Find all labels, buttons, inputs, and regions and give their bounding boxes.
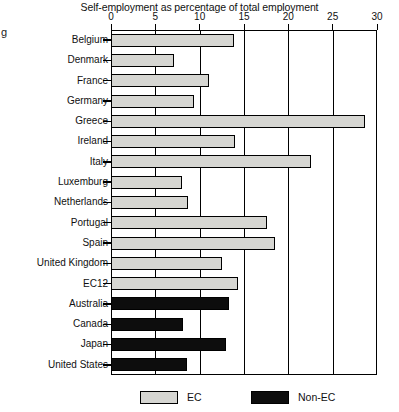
bar-ireland [111,135,235,148]
category-label: Denmark [67,50,108,70]
chart-row: Denmark [0,50,399,70]
bar-belgium [111,34,234,47]
legend-item-ec: EC [140,386,202,408]
x-axis-tick-label: 0 [108,11,114,22]
chart-row: Germany [0,91,399,111]
bar-ec12 [111,277,238,290]
x-axis-tick-label: 20 [283,11,294,22]
x-axis-tick-label: 15 [238,11,249,22]
bar-france [111,74,209,87]
bar-united-states [111,358,187,371]
x-axis-tick-label: 25 [327,11,338,22]
chart-row: Japan [0,334,399,354]
chart-row: Spain [0,233,399,253]
category-tick [103,39,111,40]
chart-row: United States [0,355,399,375]
category-tick [103,283,111,284]
chart-row: Greece [0,111,399,131]
bar-italy [111,155,311,168]
chart-legend: EC Non-EC [0,386,399,408]
x-axis-tick-label: 10 [194,11,205,22]
category-tick [103,202,111,203]
chart-figure: Self-employment as percentage of total e… [0,0,399,412]
category-tick [103,263,111,264]
legend-label-ec: EC [187,391,202,403]
bar-canada [111,318,183,331]
category-label: Netherlands [54,192,108,212]
category-tick [103,242,111,243]
category-tick [103,60,111,61]
bar-united-kingdom [111,257,222,270]
chart-row: Portugal [0,213,399,233]
category-tick [103,303,111,304]
x-axis-tick-label: 30 [371,11,382,22]
bar-germany [111,95,194,108]
category-tick [103,344,111,345]
category-tick [103,141,111,142]
bar-luxemburg [111,176,182,189]
bar-portugal [111,216,267,229]
bar-spain [111,237,275,250]
bar-greece [111,115,365,128]
chart-row: Australia [0,294,399,314]
bar-denmark [111,54,174,67]
category-tick [103,364,111,365]
category-tick [103,80,111,81]
chart-row: United Kingdom [0,253,399,273]
legend-swatch-ec [140,391,178,404]
chart-row: Italy [0,152,399,172]
category-tick [103,324,111,325]
chart-row: EC12 [0,274,399,294]
chart-row: Ireland [0,131,399,151]
category-label: United States [48,355,108,375]
category-label: Germany [67,91,108,111]
bar-australia [111,297,229,310]
category-tick [103,121,111,122]
category-label: Luxemburg [58,172,108,192]
chart-row: Luxemburg [0,172,399,192]
legend-label-non-ec: Non-EC [298,391,335,403]
chart-row: Netherlands [0,192,399,212]
legend-item-non-ec: Non-EC [251,386,335,408]
category-tick [103,181,111,182]
chart-row: Belgium [0,30,399,50]
category-tick [103,161,111,162]
chart-row: France [0,71,399,91]
bar-netherlands [111,196,188,209]
category-tick [103,100,111,101]
x-axis-tick-label: 5 [153,11,159,22]
bar-japan [111,338,226,351]
category-tick [103,222,111,223]
legend-swatch-non-ec [251,391,289,404]
chart-row: Canada [0,314,399,334]
category-label: United Kingdom [37,253,108,273]
